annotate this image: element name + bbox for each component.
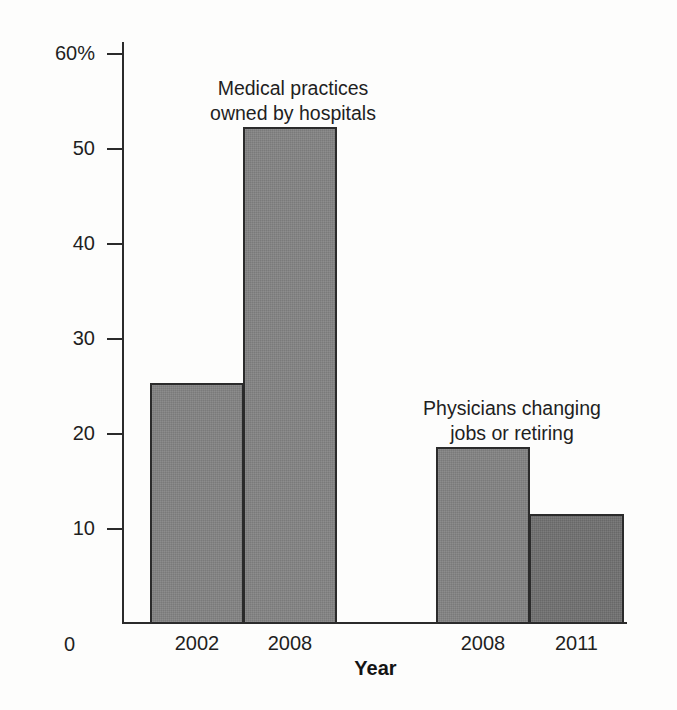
y-tick-mark [107, 528, 122, 530]
bar-chart-figure: 60% 50 40 30 20 10 0 Medical practices o… [0, 0, 677, 710]
bar-2008-medical-practices [243, 127, 337, 624]
x-label-2008-group1: 2008 [243, 633, 337, 653]
annotation-medical-practices: Medical practices owned by hospitals [168, 76, 418, 126]
y-axis-line [122, 42, 124, 624]
annotation-line-1: Medical practices [168, 76, 418, 101]
bar-2011-physicians-changing [529, 514, 624, 624]
page-caption-sliver [38, 697, 638, 710]
y-tick-label: 50 [37, 138, 95, 158]
y-tick-mark [107, 433, 122, 435]
annotation-line-2: jobs or retiring [388, 421, 636, 446]
annotation-physicians-changing: Physicians changing jobs or retiring [388, 396, 636, 446]
x-label-2008-group2: 2008 [436, 633, 530, 653]
annotation-line-2: owned by hospitals [168, 101, 418, 126]
y-tick-mark [107, 243, 122, 245]
y-axis-title-holder: Percent [0, 248, 112, 408]
bar-2008-physicians-changing [436, 447, 530, 624]
y-tick-label: 10 [37, 518, 95, 538]
annotation-line-1: Physicians changing [388, 396, 636, 421]
y-tick-label: 60% [37, 43, 95, 63]
x-axis-title: Year [354, 657, 396, 679]
y-axis-zero-label: 0 [64, 633, 75, 656]
y-tick-label: 20 [37, 423, 95, 443]
bar-2002-medical-practices [150, 383, 244, 624]
y-tick-mark [107, 148, 122, 150]
x-label-2002: 2002 [150, 633, 244, 653]
x-label-2011: 2011 [529, 633, 624, 653]
x-axis-title-wrap: Year [0, 657, 677, 680]
y-tick-mark [107, 53, 122, 55]
